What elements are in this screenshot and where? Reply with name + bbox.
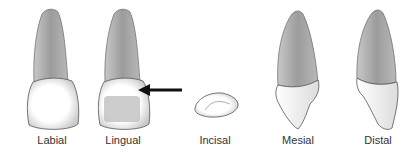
tooth-views-diagram: Labial Lingual Incisal Mesial Distal bbox=[0, 0, 419, 157]
label-lingual: Lingual bbox=[105, 134, 140, 146]
lingual-tooth bbox=[98, 9, 149, 129]
labial-tooth bbox=[27, 9, 78, 129]
label-labial: Labial bbox=[37, 134, 66, 146]
label-mesial: Mesial bbox=[282, 134, 314, 146]
label-distal: Distal bbox=[364, 134, 392, 146]
incisal-tooth bbox=[195, 93, 238, 117]
mesial-tooth bbox=[276, 11, 319, 129]
label-incisal: Incisal bbox=[199, 134, 230, 146]
distal-tooth bbox=[357, 10, 398, 129]
